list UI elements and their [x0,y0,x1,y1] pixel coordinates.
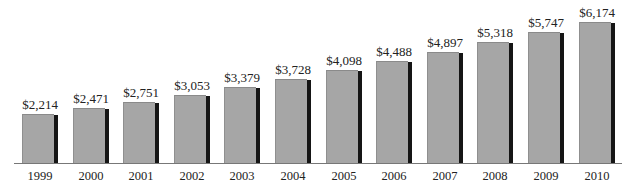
bar-shadow [155,103,159,163]
x-tick-label: 2006 [369,169,419,184]
bar [174,95,206,163]
x-tick-label: 2010 [572,169,622,184]
x-tick-label: 2004 [268,169,318,184]
bar [376,61,408,163]
bar [579,22,611,163]
bar [528,32,560,163]
x-tick-label: 2000 [66,169,116,184]
bar [123,102,155,163]
bar [22,114,54,163]
bar-shadow [358,71,362,163]
bar [326,70,358,163]
data-label: $6,174 [567,5,627,21]
x-tick-label: 2003 [217,169,267,184]
x-tick-label: 2009 [521,169,571,184]
bar-shadow [307,80,311,163]
bar [477,42,509,163]
bar [73,108,105,163]
bar-shadow [459,53,463,163]
x-tick-label: 2002 [167,169,217,184]
bar [427,52,459,163]
bar-shadow [206,96,210,163]
x-axis-line [14,163,622,164]
bar [275,79,307,163]
x-tick-label: 1999 [15,169,65,184]
bar-shadow [54,115,58,163]
bar-shadow [560,33,564,163]
bar-shadow [256,88,260,163]
bar-shadow [408,62,412,163]
bar-shadow [509,43,513,163]
x-tick-label: 2005 [319,169,369,184]
x-tick-label: 2007 [420,169,470,184]
bar-shadow [611,23,615,163]
x-tick-label: 2008 [470,169,520,184]
bar [224,87,256,163]
bar-shadow [105,109,109,163]
x-tick-label: 2001 [116,169,166,184]
